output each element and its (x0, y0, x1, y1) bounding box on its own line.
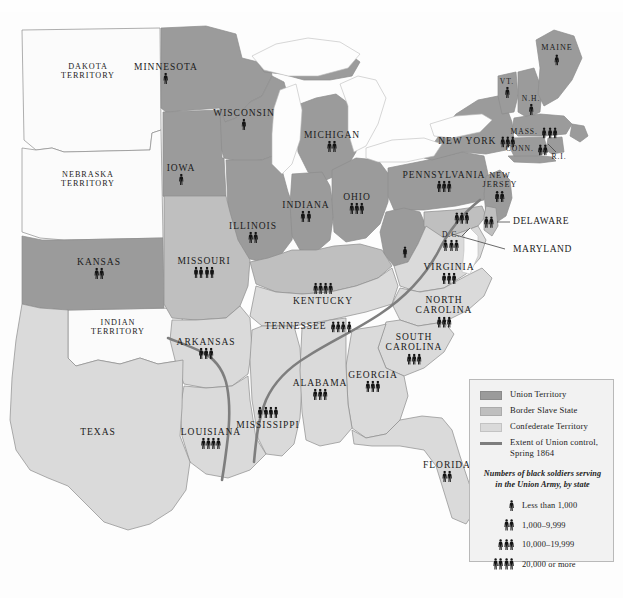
map-container: DAKOTA TERRITORYNEBRASKA TERRITORYINDIAN… (0, 0, 623, 598)
region-cape-cod (570, 124, 588, 142)
legend-scale-label-3: 10,000–19,999 (522, 540, 574, 549)
soldier-figure-icon (509, 500, 514, 512)
region-connecticut (510, 137, 548, 156)
legend-color-swatch-confederate-territory (480, 423, 502, 432)
legend-label-confederate-territory: Confederate Territory (510, 421, 588, 432)
legend-color-swatch-border-slave-state (480, 407, 502, 416)
region-massachusetts (512, 114, 572, 136)
legend-scale-label-1: Less than 1,000 (522, 501, 577, 510)
legend-category-list: Union TerritoryBorder Slave StateConfede… (480, 389, 605, 458)
legend-row-extent-of-union-control: Extent of Union control, Spring 1864 (480, 437, 605, 458)
soldier-figure-icon (509, 558, 514, 570)
region-vermont (498, 72, 518, 114)
chesapeake-bay (462, 228, 478, 274)
map-legend: Union TerritoryBorder Slave StateConfede… (469, 379, 614, 562)
legend-label-border-slave-state: Border Slave State (510, 405, 578, 416)
legend-row-border-slave-state: Border Slave State (480, 405, 605, 416)
region-south-carolina (378, 320, 454, 376)
region-iowa (163, 110, 226, 200)
legend-line-swatch-extent-of-union-control (480, 442, 502, 445)
legend-soldier-figures-2 (480, 519, 522, 531)
legend-scale-row-3: 10,000–19,999 (480, 539, 605, 551)
legend-scale-label-2: 1,000–9,999 (522, 521, 566, 530)
legend-label-extent-of-union-control: Extent of Union control, Spring 1864 (510, 437, 598, 458)
legend-color-swatch-union-territory (480, 391, 502, 400)
legend-soldier-figures-3 (480, 539, 522, 551)
region-delaware (484, 206, 498, 236)
legend-label-union-territory: Union Territory (510, 389, 566, 400)
region-indiana (290, 172, 334, 252)
legend-scale-row-2: 1,000–9,999 (480, 519, 605, 531)
region-alabama (300, 318, 352, 446)
legend-scale-row-4: 20,000 or more (480, 558, 605, 570)
legend-soldier-figures-4 (480, 558, 522, 570)
legend-row-confederate-territory: Confederate Territory (480, 421, 605, 432)
legend-scale-row-1: Less than 1,000 (480, 500, 605, 512)
region-dakota-territory (22, 28, 161, 152)
legend-scale-heading: Numbers of black soldiers serving in the… (480, 469, 605, 490)
legend-scale-label-4: 20,000 or more (522, 560, 576, 569)
region-indian-territory (68, 308, 183, 366)
legend-row-union-territory: Union Territory (480, 389, 605, 400)
legend-soldier-figures-1 (480, 500, 522, 512)
legend-scale-list: Less than 1,0001,000–9,99910,000–19,9992… (480, 500, 605, 570)
soldier-figure-icon (509, 519, 514, 531)
soldier-figure-icon (509, 539, 514, 551)
region-maine (536, 30, 582, 106)
region-kansas (22, 236, 164, 310)
